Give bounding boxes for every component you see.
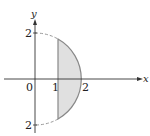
x-tick-label-1: 1 — [52, 81, 59, 94]
y-tick-label-top: 2 — [25, 27, 32, 40]
x-axis-label: x — [143, 73, 149, 84]
y-tick-label-bottom: 2 — [25, 119, 32, 132]
origin-label: 0 — [26, 81, 33, 94]
x-tick-label-2: 2 — [82, 81, 89, 94]
dashed-semicircle-bottom — [35, 119, 58, 125]
y-axis-arrow-icon — [33, 19, 37, 25]
y-axis-label: y — [30, 8, 37, 19]
region-diagram: y x 2 2 0 1 2 — [0, 0, 150, 136]
dashed-semicircle-top — [35, 33, 58, 39]
